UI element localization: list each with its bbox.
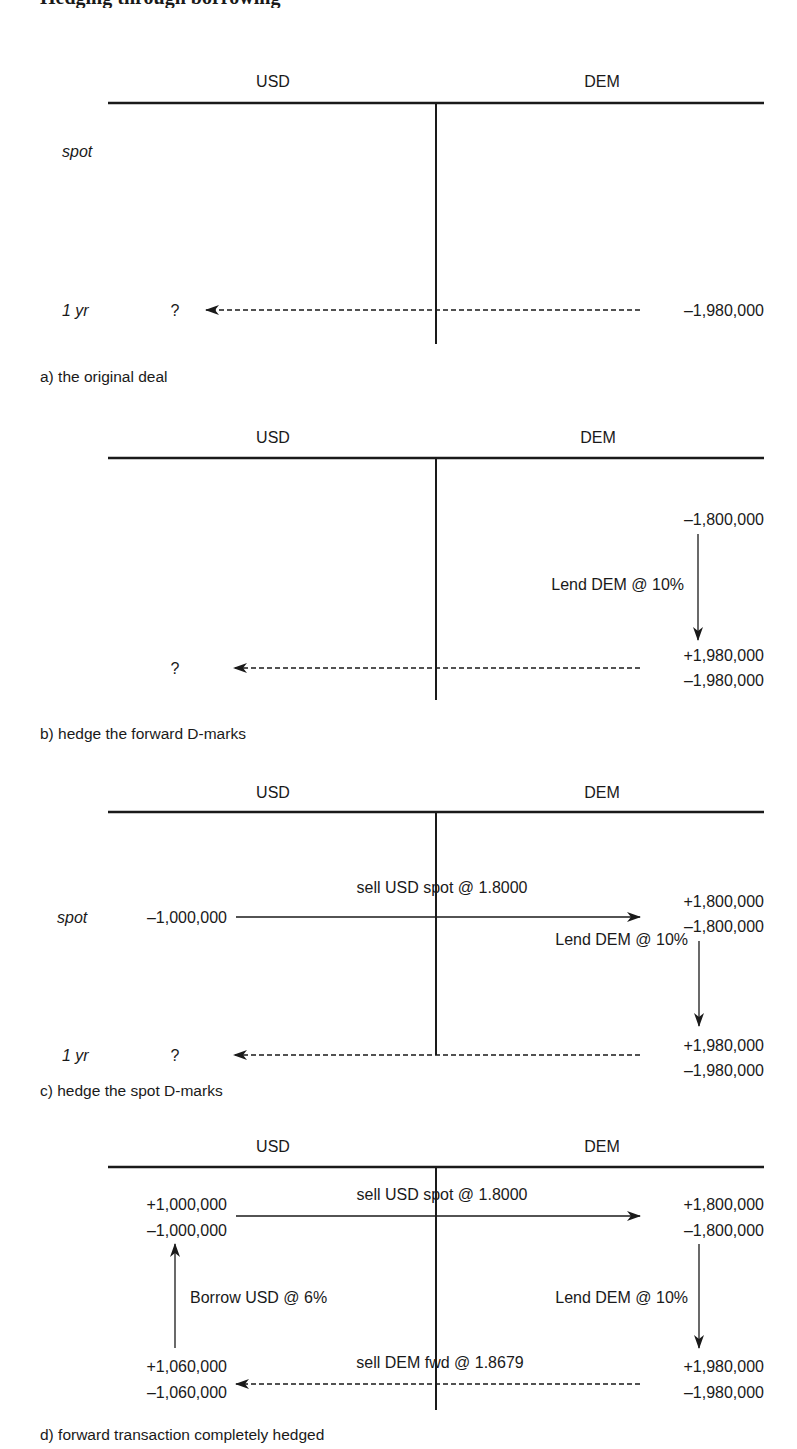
header-usd: USD	[256, 1138, 290, 1155]
header-dem: DEM	[584, 1138, 620, 1155]
header-dem: DEM	[580, 429, 616, 446]
header-usd: USD	[256, 73, 290, 90]
panel-b: USD DEM –1,800,000 Lend DEM @ 10% +1,980…	[40, 429, 764, 742]
header-dem: DEM	[584, 73, 620, 90]
usd-spot-minus: –1,000,000	[147, 1222, 227, 1239]
header-usd: USD	[256, 429, 290, 446]
usd-spot-plus: +1,000,000	[146, 1196, 227, 1213]
usd-1yr-value: ?	[171, 1047, 180, 1064]
dem-spot-plus: +1,800,000	[683, 893, 764, 910]
dem-spot-value: –1,800,000	[684, 511, 764, 528]
hedging-diagram: USD DEM spot 1 yr ? –1,980,000 a) the or…	[0, 0, 797, 1449]
lend-label: Lend DEM @ 10%	[555, 1289, 688, 1306]
header-usd: USD	[256, 784, 290, 801]
caption-c: c) hedge the spot D-marks	[40, 1082, 223, 1099]
dem-spot-plus: +1,800,000	[683, 1196, 764, 1213]
usd-1yr-minus: –1,060,000	[147, 1384, 227, 1401]
spot-arrow-label: sell USD spot @ 1.8000	[357, 1186, 528, 1203]
dem-1yr-plus: +1,980,000	[683, 1037, 764, 1054]
row-label-1yr: 1 yr	[62, 302, 89, 319]
usd-1yr-value: ?	[171, 302, 180, 319]
panel-c: USD DEM spot –1,000,000 sell USD spot @ …	[40, 784, 764, 1099]
dem-1yr-plus: +1,980,000	[683, 647, 764, 664]
lend-label: Lend DEM @ 10%	[555, 931, 688, 948]
usd-1yr-value: ?	[171, 660, 180, 677]
borrow-label: Borrow USD @ 6%	[190, 1289, 327, 1306]
header-dem: DEM	[584, 784, 620, 801]
spot-arrow-label: sell USD spot @ 1.8000	[357, 879, 528, 896]
row-label-spot: spot	[57, 909, 88, 926]
lend-label: Lend DEM @ 10%	[551, 576, 684, 593]
caption-b: b) hedge the forward D-marks	[40, 725, 246, 742]
row-label-1yr: 1 yr	[62, 1047, 89, 1064]
caption-d: d) forward transaction completely hedged	[40, 1426, 324, 1443]
dem-1yr-minus: –1,980,000	[684, 1062, 764, 1079]
dem-spot-minus: –1,800,000	[684, 1222, 764, 1239]
dem-1yr-value: –1,980,000	[684, 302, 764, 319]
row-label-spot: spot	[62, 143, 93, 160]
dem-1yr-minus: –1,980,000	[684, 672, 764, 689]
caption-a: a) the original deal	[40, 368, 168, 385]
dem-1yr-minus: –1,980,000	[684, 1384, 764, 1401]
panel-d: USD DEM +1,000,000 –1,000,000 sell USD s…	[40, 1138, 764, 1443]
panel-a: USD DEM spot 1 yr ? –1,980,000 a) the or…	[40, 73, 764, 385]
fwd-arrow-label: sell DEM fwd @ 1.8679	[356, 1354, 524, 1371]
usd-spot-value: –1,000,000	[147, 909, 227, 926]
usd-1yr-plus: +1,060,000	[146, 1358, 227, 1375]
dem-1yr-plus: +1,980,000	[683, 1358, 764, 1375]
dem-spot-minus: –1,800,000	[684, 918, 764, 935]
